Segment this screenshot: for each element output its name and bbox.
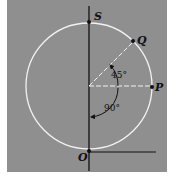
point-s <box>87 20 91 24</box>
point-o <box>87 149 91 153</box>
label-angle-90: 90° <box>104 103 120 113</box>
label-s: S <box>94 10 102 23</box>
label-q: Q <box>137 34 147 47</box>
label-p: P <box>154 81 164 94</box>
label-o: O <box>78 151 88 164</box>
circle-diagram: S Q P O 45° 90° <box>0 0 177 185</box>
label-angle-45: 45° <box>111 70 127 80</box>
point-p <box>150 85 154 89</box>
point-q <box>131 39 135 43</box>
